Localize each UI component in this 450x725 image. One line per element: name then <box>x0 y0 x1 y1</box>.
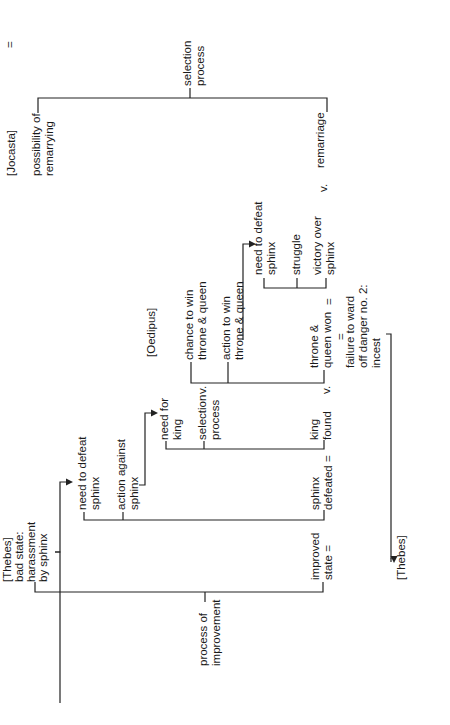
king-selection-process: selection process <box>196 391 221 440</box>
oedipus-bracket <box>191 362 324 383</box>
sphinx-defeated: sphinx defeated = <box>309 455 334 510</box>
jocasta-state: possibility of remarrying <box>30 110 55 176</box>
jocasta-label: [Jocasta] <box>5 130 17 176</box>
throne-queen-won: throne & queen won <box>308 312 333 368</box>
jocasta-remarriage: remarriage <box>314 112 326 168</box>
thebes-bottom-label: [Thebes] <box>395 535 407 580</box>
process-of-improvement: process of improvement <box>197 599 222 666</box>
king-selection-bracket <box>166 440 324 449</box>
failure-to-ward-off: failure to ward off danger no. 2: incest <box>344 281 382 368</box>
king-found: king found <box>308 411 333 440</box>
action-against-sphinx: action against sphinx <box>115 436 140 510</box>
arrow-head-icon <box>151 410 158 417</box>
oedipus-need-defeat-sphinx: need to defeat sphinx <box>252 198 277 275</box>
equals-victory: = <box>323 298 335 305</box>
oedipus-label: [Oedipus] <box>145 308 157 357</box>
thebes-action-bracket <box>84 510 324 520</box>
arrow-head-icon <box>66 479 73 486</box>
struggle-label: struggle <box>290 234 302 275</box>
action-to-win: action to win throne & queen <box>220 281 245 360</box>
sphinx-struggle-bracket <box>264 278 326 288</box>
jocasta-process-label: selection process <box>181 37 206 86</box>
chance-to-win: chance to win throne & queen <box>183 281 208 360</box>
jocasta-versus: v. <box>317 184 329 192</box>
thebes-main-bracket <box>35 582 323 602</box>
victory-over-sphinx: victory over sphinx <box>311 213 336 275</box>
throne-versus: v. <box>320 386 332 394</box>
need-for-king: need for king <box>158 395 183 440</box>
improved-state: improved state = <box>309 529 334 580</box>
oedipus-structural-diagram: = selection process [Jocasta] possibilit… <box>0 0 450 725</box>
jocasta-bracket <box>38 88 327 113</box>
top-equals-sign: = <box>4 41 16 48</box>
thebes-need-defeat-sphinx: need to defeat sphinx <box>76 433 101 510</box>
thebes-state: [Thebes] bad state: harassment by sphinx <box>1 519 49 582</box>
